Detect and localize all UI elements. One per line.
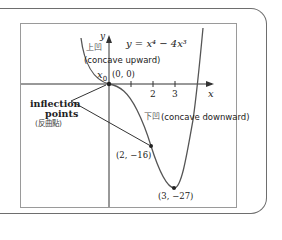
inflection-point-2	[149, 144, 153, 148]
concave-up-label: (concave upward)	[84, 56, 160, 65]
origin-x-label: x0	[97, 70, 107, 83]
equation-label: y = x⁴ − 4x³	[126, 39, 187, 49]
inflection-label-line2: points	[45, 109, 78, 119]
minimum-point-label: (3, −27)	[158, 192, 193, 201]
origin-point	[107, 82, 111, 86]
minimum-point	[172, 186, 176, 190]
x-tick-label-2: 2	[150, 90, 156, 99]
y-axis-label: y	[100, 32, 105, 41]
x-axis-label: x	[208, 89, 214, 99]
pointer-to-point-2	[71, 101, 149, 145]
origin-point-label: (0, 0)	[112, 70, 135, 79]
x-axis-arrow-icon	[206, 81, 214, 87]
concave-down-cn-label: 下凹	[144, 113, 160, 121]
concave-down-label: (concave downward)	[161, 113, 250, 122]
inflection-label-cn: (反曲點)	[35, 120, 62, 128]
curve-path	[81, 28, 203, 188]
y-axis-arrow-icon	[106, 35, 112, 43]
concave-up-cn-label: 上凹	[86, 44, 102, 52]
point-2-label: (2, −16)	[116, 151, 151, 160]
x-tick-label-3: 3	[172, 90, 178, 99]
